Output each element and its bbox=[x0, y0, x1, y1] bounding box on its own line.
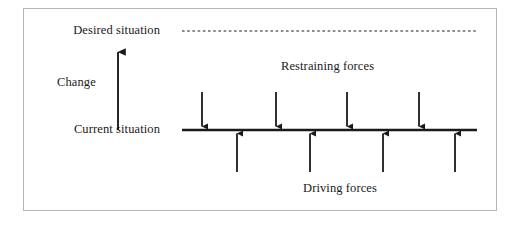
force-field-diagram: Desired situation Current situation Chan… bbox=[0, 0, 520, 226]
driving-forces-label: Driving forces bbox=[303, 182, 377, 195]
desired-situation-label: Desired situation bbox=[73, 24, 160, 37]
driving-forces-group bbox=[237, 134, 455, 173]
restraining-forces-label: Restraining forces bbox=[281, 60, 374, 73]
current-situation-label: Current situation bbox=[74, 123, 160, 136]
change-label: Change bbox=[57, 76, 96, 89]
restraining-forces-group bbox=[202, 92, 419, 127]
